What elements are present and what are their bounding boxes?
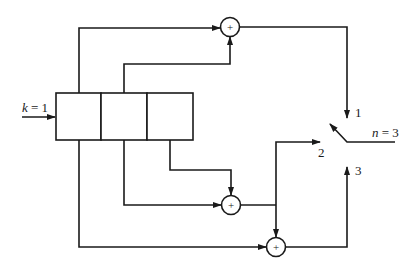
tap-cell1-to-adder1	[79, 28, 220, 93]
adder-1-plus: +	[227, 21, 233, 33]
tap-cell2-to-adder1	[124, 37, 230, 93]
adder-2-plus: +	[228, 199, 234, 211]
register-cell-2	[101, 93, 147, 140]
output-1-label: 1	[355, 105, 362, 120]
output-3-line	[286, 167, 347, 247]
adder-3-plus: +	[273, 241, 279, 253]
output-1-line	[240, 27, 347, 118]
input-label: k = 1	[22, 100, 48, 115]
convolutional-encoder-diagram: k = 1 + 1 + 2 + 3 n = 3	[0, 0, 413, 271]
tap-cell2-to-adder2	[124, 140, 221, 205]
commutator-label: n = 3	[372, 125, 399, 140]
output-3-label: 3	[355, 163, 362, 178]
commutator-switch: n = 3	[330, 124, 399, 142]
tap-cell3-to-adder2	[170, 140, 231, 195]
output-2-line	[276, 142, 320, 205]
shift-register	[56, 93, 193, 140]
tap-cell1-to-adder3	[79, 140, 266, 247]
register-cell-1	[56, 93, 101, 140]
register-cell-3	[147, 93, 193, 140]
output-2-label: 2	[318, 145, 325, 160]
